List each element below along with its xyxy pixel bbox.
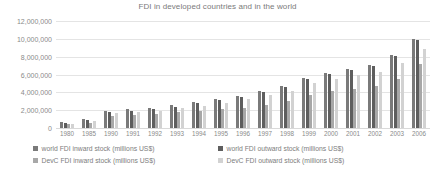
- bars-layer: [56, 21, 430, 128]
- x-axis-tick-label: 2006: [408, 130, 430, 137]
- x-axis-tick-label: 2003: [386, 130, 408, 137]
- x-axis-tick-label: 1996: [232, 130, 254, 137]
- bar-group: [232, 21, 254, 128]
- legend-item[interactable]: DevC FDI inward stock (millions US$): [33, 157, 218, 164]
- x-axis-tick-label: 1993: [166, 130, 188, 137]
- x-axis: 1980198519901991199219931994199519961997…: [56, 130, 430, 137]
- y-axis: 12,000,00010,000,0008,000,0006,000,0004,…: [0, 21, 52, 128]
- y-axis-tick-label: 10,000,000: [0, 35, 52, 42]
- y-axis-tick-label: 6,000,000: [0, 71, 52, 78]
- bar: [159, 111, 162, 128]
- bar: [137, 112, 140, 128]
- bar-group: [78, 21, 100, 128]
- bar: [269, 95, 272, 128]
- bar-group: [166, 21, 188, 128]
- y-axis-tick-label: 2,000,000: [0, 107, 52, 114]
- x-axis-tick-label: 2001: [342, 130, 364, 137]
- bar: [291, 91, 294, 128]
- bar-group: [276, 21, 298, 128]
- bar: [247, 99, 250, 128]
- chart-title: FDI in developed countries and in the wo…: [0, 2, 435, 11]
- legend-label: world FDI outward stock (millions US$): [227, 145, 344, 152]
- chart-container: FDI in developed countries and in the wo…: [0, 0, 435, 188]
- bar: [181, 108, 184, 128]
- legend-label: world FDI inward stock (millions US$): [42, 145, 155, 152]
- x-axis-tick-label: 1994: [188, 130, 210, 137]
- x-axis-tick-label: 1992: [144, 130, 166, 137]
- bar-group: [320, 21, 342, 128]
- bar: [115, 113, 118, 128]
- bar-group: [56, 21, 78, 128]
- legend-item[interactable]: DevC FDI outward stock (millions US$): [218, 157, 403, 164]
- x-axis-tick-label: 2002: [364, 130, 386, 137]
- chart-legend: world FDI inward stock (millions US$)wor…: [0, 145, 435, 164]
- x-axis-tick-label: 1991: [122, 130, 144, 137]
- x-axis-tick-label: 1997: [254, 130, 276, 137]
- legend-swatch-icon: [33, 158, 38, 163]
- legend-item[interactable]: world FDI outward stock (millions US$): [218, 145, 403, 152]
- bar-group: [408, 21, 430, 128]
- bar-group: [342, 21, 364, 128]
- legend-item[interactable]: world FDI inward stock (millions US$): [33, 145, 218, 152]
- y-axis-tick-label: 12,000,000: [0, 18, 52, 25]
- bar: [379, 72, 382, 128]
- x-axis-tick-label: 1985: [78, 130, 100, 137]
- bar-group: [144, 21, 166, 128]
- bar-group: [210, 21, 232, 128]
- y-axis-tick-label: 0: [0, 125, 52, 132]
- bar: [357, 75, 360, 128]
- bar-group: [122, 21, 144, 128]
- plot-area: [56, 21, 430, 128]
- bar: [313, 83, 316, 128]
- y-axis-tick-label: 8,000,000: [0, 53, 52, 60]
- x-axis-tick-label: 1995: [210, 130, 232, 137]
- legend-swatch-icon: [33, 146, 38, 151]
- bar: [335, 79, 338, 128]
- legend-label: DevC FDI inward stock (millions US$): [42, 157, 156, 164]
- bar: [423, 49, 426, 128]
- bar: [203, 106, 206, 128]
- bar-group: [254, 21, 276, 128]
- bar-group: [100, 21, 122, 128]
- x-axis-tick-label: 1998: [276, 130, 298, 137]
- legend-swatch-icon: [218, 158, 223, 163]
- x-axis-tick-label: 1980: [56, 130, 78, 137]
- x-axis-tick-label: 1999: [298, 130, 320, 137]
- legend-label: DevC FDI outward stock (millions US$): [227, 157, 345, 164]
- legend-swatch-icon: [218, 146, 223, 151]
- bar-group: [364, 21, 386, 128]
- bar-group: [298, 21, 320, 128]
- bar: [225, 103, 228, 128]
- x-axis-tick-label: 1990: [100, 130, 122, 137]
- bar: [401, 63, 404, 128]
- y-axis-tick-label: 4,000,000: [0, 89, 52, 96]
- x-axis-tick-label: 2000: [320, 130, 342, 137]
- bar-group: [188, 21, 210, 128]
- x-axis-line: [56, 128, 430, 129]
- bar: [93, 121, 96, 128]
- bar-group: [386, 21, 408, 128]
